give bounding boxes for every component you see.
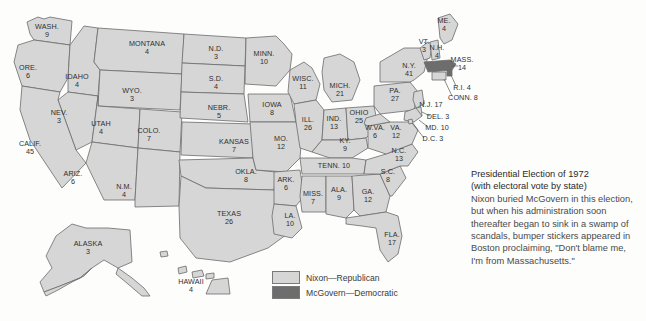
state-alaska (40, 224, 132, 292)
hawaii-island-2 (192, 270, 204, 278)
leader-connecticut (444, 79, 452, 96)
hawaii-island-4 (160, 251, 168, 257)
state-wisconsin (288, 62, 320, 104)
state-mississippi (300, 176, 326, 212)
state-montana (94, 28, 184, 74)
state-new-mexico (135, 148, 180, 207)
state-colorado (138, 109, 182, 152)
hawaii-island-3 (206, 273, 214, 279)
state-maine (438, 14, 458, 44)
state-north-dakota (182, 34, 246, 66)
state-oregon (14, 40, 70, 92)
legend-item-republican: Nixon—Republican (272, 271, 398, 284)
alaska-panhandle (116, 268, 150, 296)
state-tennessee (300, 158, 366, 174)
state-connecticut (432, 72, 446, 80)
state-south-dakota (181, 63, 245, 94)
figure-caption: Presidential Election of 1972 (with elec… (471, 168, 639, 267)
state-florida (346, 212, 402, 262)
leader-maryland (419, 120, 428, 127)
legend-item-democratic: McGovern—Democratic (272, 286, 398, 299)
legend-swatch-republican (272, 271, 300, 284)
caption-body: Nixon buried McGovern in this election, … (471, 193, 639, 267)
state-nebraska (180, 92, 248, 122)
map-legend: Nixon—Republican McGovern—Democratic (272, 271, 398, 301)
state-minnesota (245, 36, 292, 86)
leader-rhode-island (451, 75, 456, 86)
leader-delaware (422, 112, 430, 116)
state-new-jersey (413, 90, 424, 108)
state-louisiana (272, 204, 302, 238)
state-new-hampshire (430, 40, 440, 60)
legend-label-republican: Nixon—Republican (306, 273, 380, 283)
leader-vermont (424, 42, 426, 44)
state-arizona (86, 142, 138, 200)
state-kansas (181, 122, 254, 158)
state-label-votes: 8 (474, 93, 478, 102)
caption-subtitle: (with electoral vote by state) (471, 180, 639, 192)
state-michigan (322, 54, 360, 102)
figure-root: WASH.9ORE.6IDAHO4MONTANA4WYO.3NEV.3UTAH4… (0, 0, 646, 321)
state-missouri (250, 122, 302, 172)
state-wyoming (98, 70, 182, 110)
state-indiana (322, 108, 348, 140)
state-hawaii (206, 278, 230, 294)
hawaii-island-1 (178, 266, 187, 274)
state-label-votes: 4 (467, 83, 471, 92)
legend-label-democratic: McGovern—Democratic (306, 288, 398, 298)
state-alabama (326, 176, 354, 218)
caption-title: Presidential Election of 1972 (471, 168, 639, 180)
state-pennsylvania (374, 82, 418, 114)
state-new-york (380, 48, 428, 82)
state-arkansas (274, 170, 304, 206)
legend-swatch-democratic (272, 286, 300, 299)
state-iowa (248, 94, 296, 122)
